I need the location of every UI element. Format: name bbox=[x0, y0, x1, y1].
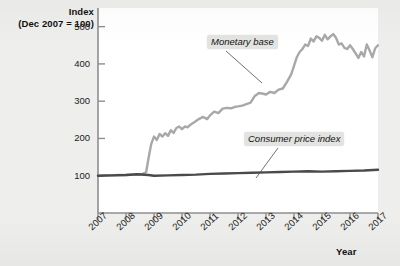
y-tick-label: 300 bbox=[50, 95, 90, 106]
series-lines bbox=[98, 34, 378, 176]
series-label-monetary-base: Monetary base bbox=[207, 35, 278, 49]
chart-figure: Index (Dec 2007 = 100) Year 100200300400… bbox=[0, 0, 400, 266]
annotation-leader-lines bbox=[226, 51, 278, 178]
y-axis-ticks bbox=[98, 27, 105, 176]
y-tick-label: 200 bbox=[50, 132, 90, 143]
y-tick-label: 100 bbox=[50, 170, 90, 181]
y-tick-label: 400 bbox=[50, 58, 90, 69]
series-label-consumer-price-index: Consumer price index bbox=[244, 132, 344, 146]
y-tick-label: 500 bbox=[50, 21, 90, 32]
